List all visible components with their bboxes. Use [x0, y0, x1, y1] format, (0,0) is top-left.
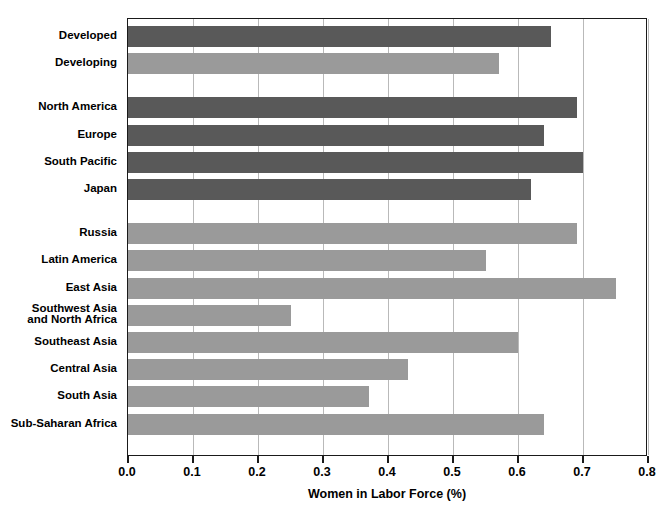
x-axis-tick: [582, 456, 584, 463]
bar-row: [128, 250, 648, 271]
x-axis-tick: [127, 456, 129, 463]
category-label: Developed: [0, 30, 117, 42]
category-label: Southwest Asia and North Africa: [0, 303, 117, 326]
x-axis-tick: [387, 456, 389, 463]
bar: [128, 359, 408, 380]
bar: [128, 386, 369, 407]
bar-row: [128, 332, 648, 353]
x-axis-tick-label: 0.6: [508, 465, 525, 479]
x-axis-tick: [647, 456, 649, 463]
category-label: Southeast Asia: [0, 336, 117, 348]
x-axis-tick: [517, 456, 519, 463]
category-label: Developing: [0, 57, 117, 69]
bar-row: [128, 125, 648, 146]
bar: [128, 250, 486, 271]
x-axis-tick-label: 0.8: [638, 465, 655, 479]
category-label: Russia: [0, 227, 117, 239]
category-label: South Asia: [0, 390, 117, 402]
bars-container: [128, 19, 646, 455]
bar-row: [128, 179, 648, 200]
category-label: South Pacific: [0, 156, 117, 168]
x-axis-tick-label: 0.5: [443, 465, 460, 479]
gridline: [648, 19, 649, 455]
category-label: Central Asia: [0, 363, 117, 375]
x-axis-tick-label: 0.4: [378, 465, 395, 479]
bar-row: [128, 152, 648, 173]
x-axis-tick-label: 0.2: [248, 465, 265, 479]
bar: [128, 332, 518, 353]
bar: [128, 97, 577, 118]
category-label: North America: [0, 101, 117, 113]
bar-row: [128, 223, 648, 244]
bar-row: [128, 305, 648, 326]
x-axis: 0.00.10.20.30.40.50.60.70.8: [127, 456, 647, 464]
bar-row: [128, 53, 648, 74]
category-label: Sub-Saharan Africa: [0, 418, 117, 430]
bar-row: [128, 359, 648, 380]
bar-row: [128, 97, 648, 118]
x-axis-tick-label: 0.3: [313, 465, 330, 479]
bar: [128, 223, 577, 244]
category-label: Japan: [0, 183, 117, 195]
x-axis-title: Women in Labor Force (%): [127, 487, 647, 501]
category-label: Europe: [0, 129, 117, 141]
bar: [128, 53, 499, 74]
category-label: Latin America: [0, 254, 117, 266]
bar-chart: DevelopedDevelopingNorth AmericaEuropeSo…: [0, 0, 669, 515]
bar: [128, 179, 531, 200]
plot-area: [127, 18, 647, 456]
bar: [128, 278, 616, 299]
chart-title-clipped: [0, 0, 669, 16]
bar: [128, 152, 583, 173]
bar: [128, 26, 551, 47]
x-axis-tick-label: 0.1: [183, 465, 200, 479]
x-axis-tick: [322, 456, 324, 463]
bar-row: [128, 414, 648, 435]
x-axis-tick: [452, 456, 454, 463]
bar: [128, 414, 544, 435]
x-axis-tick: [257, 456, 259, 463]
x-axis-tick-label: 0.0: [118, 465, 135, 479]
category-label: East Asia: [0, 282, 117, 294]
x-axis-tick: [192, 456, 194, 463]
bar-row: [128, 278, 648, 299]
bar-row: [128, 386, 648, 407]
category-axis-labels: DevelopedDevelopingNorth AmericaEuropeSo…: [0, 18, 122, 456]
bar-row: [128, 26, 648, 47]
x-axis-tick-label: 0.7: [573, 465, 590, 479]
bar: [128, 125, 544, 146]
bar: [128, 305, 291, 326]
